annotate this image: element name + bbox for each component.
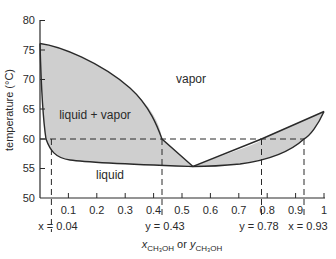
x-ticks xyxy=(68,193,324,198)
y-tick-label: 80 xyxy=(23,14,35,26)
region-label-liquid-vapor: liquid + vapor xyxy=(59,108,131,122)
x-tick-label: 0.2 xyxy=(89,204,104,216)
region-label-liquid: liquid xyxy=(96,168,124,182)
two-phase-region-left xyxy=(40,44,193,167)
y-tick-label: 60 xyxy=(23,133,35,145)
annotation-y-0.78: y = 0.78 xyxy=(239,220,278,232)
y-tick-label: 50 xyxy=(23,192,35,204)
y-tick-label: 75 xyxy=(23,44,35,56)
x-tick-label: 0.4 xyxy=(146,204,161,216)
x-tick-labels: 0.1 0.2 0.3 0.4 0.5 0.6 0.7 0.8 0.9 1 xyxy=(61,204,327,216)
x-tick-label: 0.9 xyxy=(288,204,303,216)
x-axis-title-x-sub: CH₃OH xyxy=(147,244,174,253)
x-tick-label: 0.5 xyxy=(174,204,189,216)
x-axis-title-y-sub: CH₃OH xyxy=(195,244,222,253)
y-tick-label: 65 xyxy=(23,103,35,115)
x-tick-label: 0.3 xyxy=(118,204,133,216)
phase-diagram: 50 55 60 65 70 75 80 0.1 0.2 0.3 0.4 0.5… xyxy=(0,0,336,259)
x-axis-title-or: or xyxy=(177,238,187,250)
region-label-vapor: vapor xyxy=(176,72,206,86)
y-tick-label: 70 xyxy=(23,73,35,85)
x-tick-label: 0.8 xyxy=(260,204,275,216)
x-tick-label: 0.6 xyxy=(203,204,218,216)
x-axis-title: xCH₃OHoryCH₃OH xyxy=(141,238,223,253)
annotation-x-0.93: x = 0.93 xyxy=(288,220,327,232)
annotation-y-0.43: y = 0.43 xyxy=(145,220,184,232)
x-tick-label: 0.1 xyxy=(61,204,76,216)
annotation-x-0.04: x = 0.04 xyxy=(38,220,77,232)
x-tick-label: 1 xyxy=(321,204,327,216)
y-tick-label: 55 xyxy=(23,162,35,174)
x-tick-label: 0.7 xyxy=(231,204,246,216)
y-axis-title: temperature (°C) xyxy=(3,69,15,151)
y-tick-labels: 50 55 60 65 70 75 80 xyxy=(23,14,35,204)
